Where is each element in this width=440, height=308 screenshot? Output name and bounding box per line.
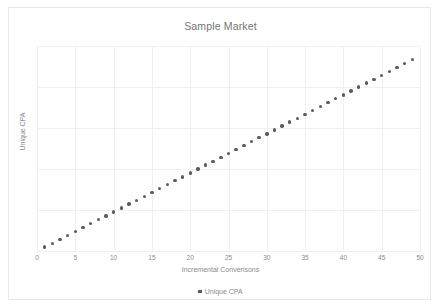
gridline-vertical	[75, 46, 76, 251]
data-point	[120, 206, 123, 209]
data-point	[97, 218, 100, 221]
data-point	[273, 128, 276, 131]
data-point	[227, 152, 230, 155]
data-point	[166, 183, 169, 186]
gridline-vertical	[114, 46, 115, 251]
x-tick-label: 10	[99, 254, 129, 261]
data-point	[204, 163, 207, 166]
legend-marker-icon	[198, 290, 201, 293]
gridline-horizontal	[37, 169, 420, 170]
data-point	[411, 58, 414, 61]
data-point	[365, 81, 368, 84]
data-point	[357, 85, 360, 88]
data-point	[181, 175, 184, 178]
chart-legend: Unique CPA	[9, 288, 432, 295]
gridline-horizontal	[37, 87, 420, 88]
x-tick-label: 50	[405, 254, 435, 261]
data-point	[250, 140, 253, 143]
data-point	[257, 136, 260, 139]
data-point	[234, 148, 237, 151]
data-point	[403, 62, 406, 65]
data-point	[51, 242, 54, 245]
data-point	[143, 195, 146, 198]
gridline-vertical	[305, 46, 306, 251]
data-point	[43, 245, 46, 248]
data-point	[303, 113, 306, 116]
data-point	[326, 101, 329, 104]
x-tick-label: 0	[22, 254, 52, 261]
chart-container: Sample Market Unique CPA Incremental Con…	[8, 7, 431, 300]
data-point	[349, 89, 352, 92]
data-point	[311, 109, 314, 112]
x-tick-label: 20	[175, 254, 205, 261]
data-point	[104, 214, 107, 217]
data-point	[342, 93, 345, 96]
legend-item-label: Unique CPA	[205, 288, 243, 295]
gridline-vertical	[420, 46, 421, 251]
gridline-vertical	[343, 46, 344, 251]
gridline-vertical	[37, 46, 38, 251]
data-point	[158, 187, 161, 190]
plot-area	[37, 46, 420, 251]
data-point	[219, 156, 222, 159]
gridline-vertical	[229, 46, 230, 251]
gridline-horizontal	[37, 210, 420, 211]
data-point	[173, 179, 176, 182]
data-point	[135, 199, 138, 202]
gridline-vertical	[190, 46, 191, 251]
data-point	[288, 120, 291, 123]
data-point	[280, 124, 283, 127]
data-point	[296, 117, 299, 120]
x-tick-label: 40	[328, 254, 358, 261]
data-point	[150, 191, 153, 194]
data-point	[334, 97, 337, 100]
x-tick-label: 25	[214, 254, 244, 261]
data-point	[58, 238, 61, 241]
data-point	[196, 167, 199, 170]
gridline-horizontal	[37, 128, 420, 129]
data-point	[380, 74, 383, 77]
data-point	[89, 222, 92, 225]
gridline-horizontal	[37, 251, 420, 252]
data-point	[66, 234, 69, 237]
data-point	[74, 230, 77, 233]
x-axis-title: Incremental Converisons	[9, 266, 432, 273]
x-tick-label: 35	[290, 254, 320, 261]
data-point	[112, 210, 115, 213]
data-point	[211, 160, 214, 163]
data-point	[395, 66, 398, 69]
data-point	[189, 171, 192, 174]
x-tick-label: 15	[137, 254, 167, 261]
x-tick-label: 45	[367, 254, 397, 261]
x-tick-label: 30	[252, 254, 282, 261]
gridline-horizontal	[37, 46, 420, 47]
data-point	[319, 105, 322, 108]
data-point	[388, 70, 391, 73]
x-tick-label: 5	[60, 254, 90, 261]
data-point	[242, 144, 245, 147]
data-point	[81, 226, 84, 229]
y-axis-title: Unique CPA	[19, 87, 26, 177]
gridline-vertical	[267, 46, 268, 251]
data-point	[265, 132, 268, 135]
gridline-vertical	[152, 46, 153, 251]
data-point	[127, 202, 130, 205]
data-point	[372, 78, 375, 81]
chart-title: Sample Market	[9, 20, 432, 32]
